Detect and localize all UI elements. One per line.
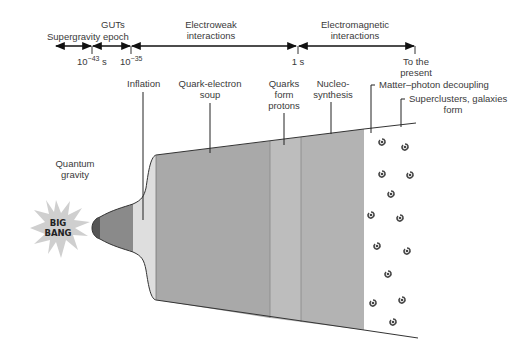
quantum-gravity-region (92, 217, 100, 239)
nucleosynthesis-l1: Nucleo- (317, 78, 350, 89)
protons-l2: form (275, 89, 294, 100)
era-electromagnetic-l2: interactions (331, 30, 380, 41)
big-bang-starburst: BIG BANG (30, 200, 90, 258)
universe-shape (92, 123, 418, 338)
protons-region (270, 137, 301, 322)
inflation-region (133, 155, 156, 300)
tick-label-present-l1: To the (403, 56, 429, 67)
tick-label-1e-43: 10−43 s (77, 55, 107, 67)
quantum-gravity-l2: gravity (61, 169, 89, 180)
protons-l1: Quarks (269, 78, 300, 89)
quark-soup-l2: soup (200, 89, 221, 100)
inflation-label: Inflation (127, 78, 160, 89)
galaxies-l2: form (444, 104, 463, 115)
era-electroweak-l1: Electroweak (185, 19, 237, 30)
decoupling-label: Matter–photon decoupling (379, 79, 489, 90)
era-electromagnetic-l1: Electromagnetic (321, 19, 389, 30)
nucleosynthesis-l2: synthesis (313, 89, 353, 100)
tick-label-1e-35: 10−35 (120, 55, 143, 67)
tick-label-1s: 1 s (292, 56, 305, 67)
big-bang-timeline-diagram: Supergravity epoch GUTs Electroweak inte… (0, 0, 528, 354)
timeline: Supergravity epoch GUTs Electroweak inte… (47, 19, 432, 78)
nucleosynthesis-region (301, 129, 364, 330)
gut-region (100, 204, 133, 252)
era-guts: GUTs (101, 19, 125, 30)
protons-l3: protons (268, 100, 300, 111)
quantum-gravity-l1: Quantum (55, 158, 94, 169)
galaxies-l1: Superclusters, galaxies (409, 93, 507, 104)
quark-soup-l1: Quark-electron (179, 78, 242, 89)
big-bang-line1: BIG (50, 218, 67, 228)
big-bang-line2: BANG (44, 228, 71, 238)
quark-soup-region (156, 141, 270, 318)
era-supergravity: Supergravity epoch (47, 31, 129, 42)
era-electroweak-l2: interactions (187, 30, 236, 41)
tick-label-present-l2: present (400, 67, 432, 78)
galaxies (368, 139, 413, 325)
